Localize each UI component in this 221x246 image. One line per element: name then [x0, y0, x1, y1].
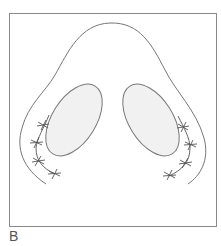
stitch-icon: [163, 170, 176, 180]
stitch-icon: [48, 169, 61, 179]
stitch-icon: [32, 156, 45, 166]
figure-frame: [10, 14, 217, 227]
panel-label: B: [9, 228, 18, 244]
right-nostril: [111, 74, 191, 165]
stitch-icon: [184, 140, 197, 150]
nose-diagram: [0, 0, 221, 246]
outer-contour: [20, 23, 206, 184]
stitch-icon: [179, 158, 192, 168]
